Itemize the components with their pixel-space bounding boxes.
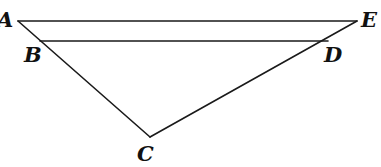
vertex-label-c: C — [137, 143, 154, 164]
vertex-label-e: E — [361, 9, 377, 30]
vertex-label-b: B — [24, 44, 42, 65]
vertex-label-a: A — [0, 9, 13, 30]
figure-canvas — [0, 0, 381, 167]
figure-background — [0, 0, 381, 167]
vertex-label-d: D — [324, 44, 342, 65]
geometry-figure: A B C D E — [0, 0, 381, 167]
